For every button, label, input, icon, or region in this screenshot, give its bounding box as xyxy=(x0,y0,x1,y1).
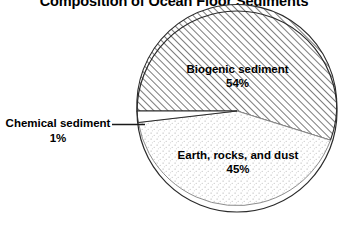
pie-chart-graphic xyxy=(0,0,348,229)
chemical-label-text: Chemical sediment xyxy=(6,117,111,129)
slice-label-biogenic-sediment: Biogenic sediment 54% xyxy=(165,62,310,90)
biogenic-label-text: Biogenic sediment xyxy=(186,63,288,75)
earth-label-value: 45% xyxy=(163,162,313,176)
chemical-label-value: 1% xyxy=(4,131,112,146)
slice-label-earth-rocks-dust: Earth, rocks, and dust 45% xyxy=(163,148,313,176)
pie-chart-figure: Composition of Ocean Floor Sediments xyxy=(0,0,348,229)
earth-label-text: Earth, rocks, and dust xyxy=(178,149,299,161)
biogenic-label-value: 54% xyxy=(165,76,310,90)
slice-label-chemical-sediment: Chemical sediment 1% xyxy=(4,116,112,146)
